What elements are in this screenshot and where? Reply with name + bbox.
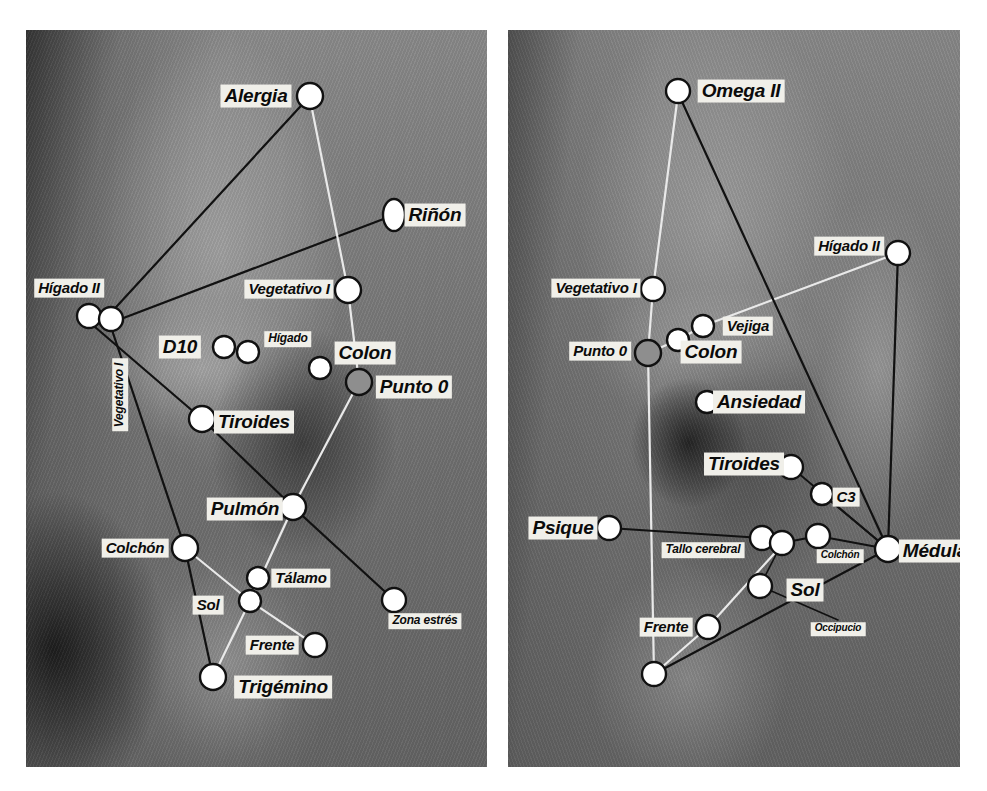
point-label-sol: Sol xyxy=(193,596,224,615)
point-label-tallo1: Tallo cerebral xyxy=(662,542,745,558)
left-ear-connector-overlay xyxy=(26,30,487,767)
right-ear-panel: Omega IIHígado IIVegetativo IVejigaColon… xyxy=(508,30,960,767)
left-ear-panel: AlergiaRiñónHígado IIVegetativo IVegetat… xyxy=(26,30,487,767)
point-label-omega2: Omega II xyxy=(698,80,785,103)
point-marker-vejiga[interactable] xyxy=(692,315,714,337)
point-label-ansiedad: Ansiedad xyxy=(713,391,805,414)
point-label-tiroides: Tiroides xyxy=(214,411,294,434)
point-marker-medula[interactable] xyxy=(875,536,901,562)
point-label-pulmon: Pulmón xyxy=(207,498,283,521)
point-marker-vegetativo1r[interactable] xyxy=(641,277,665,301)
point-marker-psique[interactable] xyxy=(597,516,621,540)
point-label-vegetativo1r: Vegetativo I xyxy=(551,279,640,298)
point-label-colchonr: Colchón xyxy=(817,549,864,563)
connector-line xyxy=(654,549,888,674)
point-marker-c3[interactable] xyxy=(811,483,833,505)
connector-line xyxy=(703,253,898,326)
point-marker-rinon[interactable] xyxy=(383,199,405,231)
point-marker-frenter[interactable] xyxy=(696,615,720,639)
point-label-frente: Frente xyxy=(246,636,299,655)
point-label-alergia: Alergia xyxy=(220,85,291,108)
point-marker-punto0[interactable] xyxy=(346,369,372,395)
point-marker-trigemino[interactable] xyxy=(200,664,226,690)
point-marker-solr[interactable] xyxy=(748,574,772,598)
point-label-colonr: Colon xyxy=(681,341,742,364)
point-marker-lobulo[interactable] xyxy=(642,662,666,686)
point-label-punto0r: Punto 0 xyxy=(569,342,631,361)
auriculotherapy-figure: AlergiaRiñónHígado IIVegetativo IVegetat… xyxy=(0,0,987,791)
point-label-occipucio: Occipucio xyxy=(811,622,866,636)
connector-line xyxy=(293,382,359,507)
point-marker-vegetativo1[interactable] xyxy=(335,277,361,303)
point-marker-higado2[interactable] xyxy=(886,241,910,265)
point-marker-sol[interactable] xyxy=(239,590,261,612)
point-marker-colchon[interactable] xyxy=(172,535,198,561)
point-label-zonaestres: Zona estrés xyxy=(388,613,461,629)
point-label-vejiga: Vejiga xyxy=(723,317,773,336)
connector-line xyxy=(653,94,678,289)
point-label-higado2a: Hígado II xyxy=(34,279,104,298)
point-marker-d10[interactable] xyxy=(213,336,235,358)
point-label-tiroidesr: Tiroides xyxy=(704,453,784,476)
point-marker-talamo[interactable] xyxy=(247,567,269,589)
point-label-colon: Colon xyxy=(335,342,396,365)
point-label-d10: D10 xyxy=(159,336,201,359)
point-label-frenter: Frente xyxy=(640,618,693,637)
point-label-higado2: Hígado II xyxy=(814,237,884,256)
point-label-colchon: Colchón xyxy=(102,539,169,558)
point-marker-pulmon[interactable] xyxy=(280,494,306,520)
point-label-vegetativo1: Vegetativo I xyxy=(244,280,333,299)
connector-line xyxy=(888,253,898,549)
point-marker-higado2a[interactable] xyxy=(77,304,101,328)
point-marker-higado[interactable] xyxy=(237,341,259,363)
point-marker-omega2[interactable] xyxy=(666,79,690,103)
point-marker-tiroides[interactable] xyxy=(189,406,215,432)
point-label-trigemino: Trigémino xyxy=(234,676,332,699)
point-label-talamo: Tálamo xyxy=(271,569,330,588)
point-marker-colon[interactable] xyxy=(309,357,331,379)
point-marker-frente[interactable] xyxy=(303,633,327,657)
point-label-higado: Hígado xyxy=(264,331,311,347)
point-label-punto0: Punto 0 xyxy=(376,376,452,399)
point-label-psique: Psique xyxy=(528,517,597,540)
point-label-rinon: Riñón xyxy=(405,204,466,227)
connector-line xyxy=(113,215,394,322)
point-label-medula: Médula xyxy=(899,540,960,563)
point-marker-zonaestres[interactable] xyxy=(382,588,406,612)
point-marker-alergia[interactable] xyxy=(297,83,323,109)
point-marker-punto0r[interactable] xyxy=(635,340,661,366)
connector-line xyxy=(310,99,348,290)
point-label-vegetativo1v: Vegetativo I xyxy=(112,359,128,432)
point-marker-tallo2[interactable] xyxy=(770,531,794,555)
point-label-c3: C3 xyxy=(833,488,860,507)
point-marker-colchonr[interactable] xyxy=(806,524,830,548)
connector-line xyxy=(609,528,762,538)
point-label-solr: Sol xyxy=(787,579,824,602)
point-marker-higado2b[interactable] xyxy=(99,307,123,331)
